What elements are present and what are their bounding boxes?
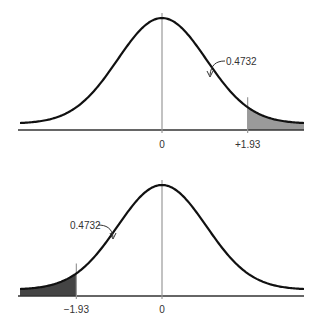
normal-distribution-diagrams: 0 +1.93 0.4732 0 −1.93 0.4732 [0,0,323,333]
area-annotation-label: 0.4732 [70,220,101,231]
center-tick-label: 0 [159,304,165,315]
top-normal-curve-chart: 0 +1.93 0.4732 [18,13,304,150]
cutoff-tick-label: −1.93 [64,304,90,315]
area-annotation-label: 0.4732 [226,56,257,67]
bottom-normal-curve-chart: 0 −1.93 0.4732 [18,180,304,315]
center-tick-label: 0 [159,139,165,150]
cutoff-tick-label: +1.93 [235,139,261,150]
